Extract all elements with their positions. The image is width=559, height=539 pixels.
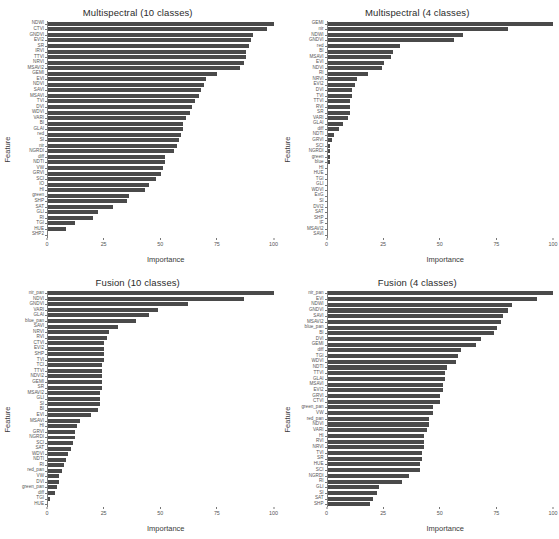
bars-area xyxy=(47,291,274,508)
bar xyxy=(48,27,267,31)
bar xyxy=(48,369,102,373)
bar xyxy=(328,360,457,364)
x-tick-label: 0 xyxy=(46,238,49,247)
bar xyxy=(328,417,429,421)
bar xyxy=(48,347,104,351)
bar xyxy=(328,83,355,87)
x-tick-label: 100 xyxy=(549,238,558,247)
x-axis-title: Importance xyxy=(338,523,554,534)
bar xyxy=(48,463,64,467)
bar xyxy=(48,199,127,203)
bar xyxy=(48,341,104,345)
bar xyxy=(48,138,179,142)
bar xyxy=(328,149,330,153)
bar xyxy=(48,127,183,131)
bar xyxy=(48,116,186,120)
x-tick-mark xyxy=(326,238,327,240)
bar xyxy=(328,491,378,495)
bar xyxy=(48,216,93,220)
bar xyxy=(48,319,136,323)
bar xyxy=(328,422,429,426)
bar xyxy=(328,94,353,98)
panel-grid: Multispectral (10 classes) Feature NDWIC… xyxy=(0,0,559,539)
bar xyxy=(328,160,330,164)
bar xyxy=(328,50,393,54)
bar xyxy=(328,428,427,432)
x-tick-label: 100 xyxy=(269,507,278,516)
bar xyxy=(48,380,102,384)
bar xyxy=(328,320,502,324)
bar xyxy=(328,388,443,392)
x-tick-label: 0 xyxy=(46,507,49,516)
bar xyxy=(328,440,425,444)
bar xyxy=(328,122,344,126)
x-tick-label: 50 xyxy=(437,507,443,516)
bar xyxy=(48,160,165,164)
bar xyxy=(328,502,371,506)
bar xyxy=(328,348,461,352)
bar xyxy=(328,383,443,387)
x-tick-mark xyxy=(496,507,497,509)
y-tick-labels: GEMInirNDWIGNDVIredBIMSAVIEVINDVIRINRVIE… xyxy=(293,21,327,238)
y-tick-label: SAVI xyxy=(293,232,327,238)
x-tick-label: 75 xyxy=(214,507,220,516)
bar xyxy=(48,363,102,367)
x-tick-label: 50 xyxy=(157,507,163,516)
bar xyxy=(48,22,274,26)
x-tick-mark xyxy=(439,507,440,509)
bar xyxy=(48,441,73,445)
bar xyxy=(48,447,71,451)
bar xyxy=(48,205,113,209)
x-tick-mark xyxy=(216,238,217,240)
bar xyxy=(48,66,240,70)
bar xyxy=(48,436,75,440)
x-tick-label: 75 xyxy=(493,507,499,516)
bar xyxy=(48,77,206,81)
x-tick-mark xyxy=(439,238,440,240)
figure-root: Multispectral (10 classes) Feature NDWIC… xyxy=(0,0,559,539)
bar xyxy=(48,33,253,37)
panel-title: Multispectral (4 classes) xyxy=(282,6,554,20)
bar xyxy=(48,61,244,65)
x-axis: 0255075100 xyxy=(47,507,274,523)
x-tick-label: 25 xyxy=(380,238,386,247)
x-tick-mark xyxy=(326,507,327,509)
bar xyxy=(328,337,481,341)
x-tick-label: 100 xyxy=(269,238,278,247)
panel-title: Fusion (4 classes) xyxy=(282,276,554,290)
bar xyxy=(328,27,508,31)
bar xyxy=(328,400,441,404)
bar xyxy=(48,221,75,225)
bar xyxy=(328,457,423,461)
bar xyxy=(328,105,351,109)
x-tick-mark xyxy=(47,507,48,509)
bar xyxy=(328,485,380,489)
bar xyxy=(48,210,98,214)
bars-area xyxy=(327,21,554,238)
x-tick-label: 50 xyxy=(157,238,163,247)
x-tick-mark xyxy=(160,507,161,509)
bar xyxy=(328,72,369,76)
bar xyxy=(328,405,434,409)
bar xyxy=(48,155,165,159)
bar xyxy=(328,371,445,375)
bar xyxy=(48,177,156,181)
y-tick-labels: nir_panNDVIGNDVIVARIGLAIblue_panSAVINRVI… xyxy=(13,291,47,508)
bar xyxy=(48,452,68,456)
bar xyxy=(328,155,330,159)
x-tick-mark xyxy=(273,238,274,240)
bar xyxy=(48,480,59,484)
bar xyxy=(48,44,249,48)
x-axis: 0255075100 xyxy=(47,238,274,254)
x-tick-mark xyxy=(216,507,217,509)
y-tick-labels: nir_panEVINDWIGNDVISAVIMSAVI2blue_panBID… xyxy=(293,291,327,508)
x-tick-mark xyxy=(160,238,161,240)
x-tick-mark xyxy=(496,238,497,240)
bar xyxy=(48,99,195,103)
x-axis: 0255075100 xyxy=(327,507,554,523)
bar xyxy=(328,343,477,347)
bar xyxy=(328,394,441,398)
bar xyxy=(48,122,183,126)
bar xyxy=(48,166,163,170)
x-axis-title: Importance xyxy=(58,254,274,265)
